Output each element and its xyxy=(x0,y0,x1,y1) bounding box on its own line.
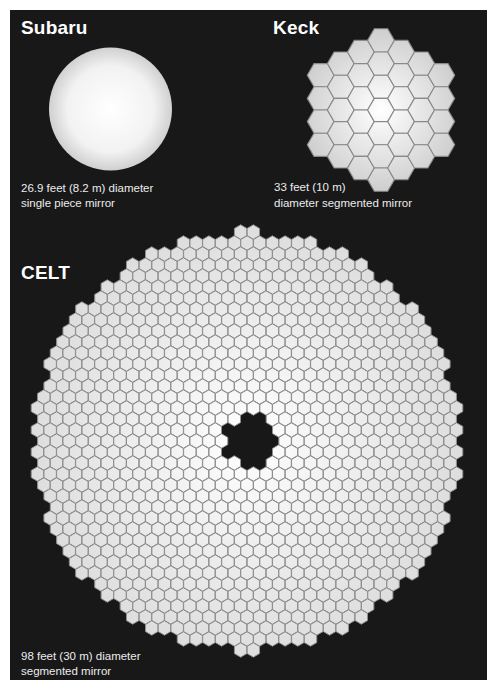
celt-title: CELT xyxy=(21,262,70,284)
mirror-diagrams xyxy=(0,0,497,684)
mirror-segment xyxy=(158,621,170,635)
subaru-mirror xyxy=(49,48,172,171)
mirror-segment xyxy=(292,632,304,646)
mirror-segment xyxy=(203,632,215,646)
mirror-segment xyxy=(146,621,158,635)
mirror-segment xyxy=(336,621,348,635)
keck-title: Keck xyxy=(273,17,319,39)
mirror-segment xyxy=(355,610,367,624)
mirror-segment xyxy=(234,643,246,657)
mirror-segment xyxy=(76,566,88,580)
keck-mirror xyxy=(307,29,454,191)
mirror-segment xyxy=(304,632,316,646)
keck-caption: 33 feet (10 m) diameter segmented mirror xyxy=(274,180,412,211)
mirror-segment xyxy=(101,588,113,602)
mirror-segment xyxy=(190,632,202,646)
celt-caption: 98 feet (30 m) diameter segmented mirror xyxy=(21,649,141,678)
mirror-segment xyxy=(266,632,278,646)
mirror-segment xyxy=(126,610,138,624)
subaru-title: Subaru xyxy=(21,17,88,39)
subaru-caption-line2: single piece mirror xyxy=(21,196,153,211)
mirror-segment xyxy=(279,632,291,646)
mirror-segment xyxy=(380,588,392,602)
keck-caption-line1: 33 feet (10 m) xyxy=(274,180,412,196)
celt-caption-line2: segmented mirror xyxy=(21,664,141,679)
mirror-segment xyxy=(247,401,259,415)
mirror-segment xyxy=(228,412,240,426)
mirror-segment xyxy=(247,643,259,657)
celt-caption-line1: 98 feet (30 m) diameter xyxy=(21,649,141,664)
celt-mirror xyxy=(31,225,463,657)
mirror-segment xyxy=(177,632,189,646)
mirror-segment xyxy=(323,621,335,635)
keck-caption-line2: diameter segmented mirror xyxy=(274,196,412,212)
mirror-segment xyxy=(406,566,418,580)
subaru-caption-line1: 26.9 feet (8.2 m) diameter xyxy=(21,181,153,196)
mirror-segment xyxy=(215,632,227,646)
subaru-caption: 26.9 feet (8.2 m) diameter single piece … xyxy=(21,181,153,210)
